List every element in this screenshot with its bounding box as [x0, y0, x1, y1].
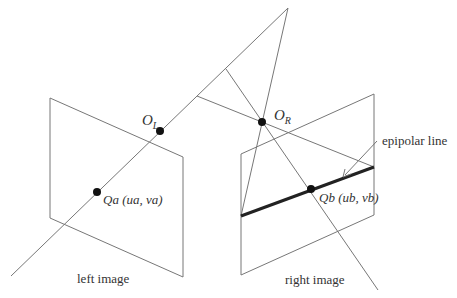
label-right-image: right image [285, 273, 345, 286]
left-projection-ray [11, 8, 288, 276]
point-Qa [93, 188, 101, 196]
epipolar-arrow [345, 141, 377, 175]
label-left-image: left image [77, 272, 129, 285]
diagram-lines [0, 0, 457, 298]
left-image-plane [50, 98, 183, 277]
label-OR-sub: R [285, 115, 291, 126]
label-OR-main: O [274, 107, 285, 123]
label-OR: OR [274, 108, 291, 123]
epipolar-geometry-diagram: OL OR Qa (ua, va) Qb (ub, vb) epipolar l… [0, 0, 457, 298]
label-epipolar-line: epipolar line [382, 134, 447, 147]
point-OR [258, 118, 266, 126]
label-Qa: Qa (ua, va) [103, 193, 163, 206]
label-OL-sub: L [153, 120, 159, 131]
label-OL: OL [142, 113, 158, 128]
point-Qb [307, 185, 315, 193]
label-Qb: Qb (ub, vb) [319, 191, 379, 204]
label-OL-main: O [142, 112, 153, 128]
